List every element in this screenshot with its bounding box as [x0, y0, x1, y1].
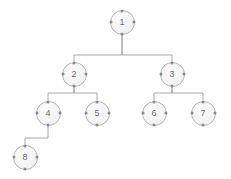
graph-node-6[interactable]: 6 — [142, 101, 167, 126]
graph-node-label: 8 — [22, 153, 27, 162]
connection-handle-s[interactable] — [171, 84, 174, 87]
graph-node-4[interactable]: 4 — [36, 101, 61, 126]
connection-handle-s[interactable] — [202, 123, 205, 126]
graph-node-label: 3 — [169, 70, 174, 79]
graph-node-2[interactable]: 2 — [62, 62, 87, 87]
graph-node-label: 7 — [200, 109, 205, 118]
graph-node-3[interactable]: 3 — [160, 62, 185, 87]
graph-node-5[interactable]: 5 — [85, 101, 110, 126]
connection-handle-n[interactable] — [47, 100, 50, 103]
connection-handle-e[interactable] — [213, 112, 216, 115]
graph-node-label: 2 — [71, 70, 76, 79]
node-layer: 12345678 — [0, 0, 231, 179]
connection-handle-s[interactable] — [73, 84, 76, 87]
connection-handle-s[interactable] — [96, 123, 99, 126]
graph-node-1[interactable]: 1 — [110, 10, 135, 35]
connection-handle-w[interactable] — [61, 73, 64, 76]
connection-handle-w[interactable] — [159, 73, 162, 76]
connection-handle-s[interactable] — [47, 123, 50, 126]
connection-handle-e[interactable] — [35, 156, 38, 159]
connection-handle-w[interactable] — [141, 112, 144, 115]
connection-handle-s[interactable] — [121, 32, 124, 35]
connection-handle-w[interactable] — [109, 21, 112, 24]
connection-handle-e[interactable] — [132, 21, 135, 24]
diagram-canvas[interactable]: 12345678 — [0, 0, 231, 179]
connection-handle-e[interactable] — [58, 112, 61, 115]
connection-handle-n[interactable] — [153, 100, 156, 103]
connection-handle-s[interactable] — [24, 167, 27, 170]
connection-handle-e[interactable] — [107, 112, 110, 115]
graph-node-7[interactable]: 7 — [191, 101, 216, 126]
connection-handle-n[interactable] — [96, 100, 99, 103]
connection-handle-e[interactable] — [164, 112, 167, 115]
connection-handle-n[interactable] — [24, 144, 27, 147]
connection-handle-n[interactable] — [202, 100, 205, 103]
connection-handle-n[interactable] — [121, 9, 124, 12]
connection-handle-w[interactable] — [12, 156, 15, 159]
connection-handle-w[interactable] — [190, 112, 193, 115]
graph-node-8[interactable]: 8 — [13, 145, 38, 170]
graph-node-label: 1 — [119, 18, 124, 27]
graph-node-label: 6 — [151, 109, 156, 118]
connection-handle-n[interactable] — [73, 61, 76, 64]
connection-handle-n[interactable] — [171, 61, 174, 64]
connection-handle-w[interactable] — [84, 112, 87, 115]
connection-handle-s[interactable] — [153, 123, 156, 126]
connection-handle-e[interactable] — [84, 73, 87, 76]
connection-handle-e[interactable] — [182, 73, 185, 76]
graph-node-label: 5 — [94, 109, 99, 118]
connection-handle-w[interactable] — [35, 112, 38, 115]
graph-node-label: 4 — [45, 109, 50, 118]
